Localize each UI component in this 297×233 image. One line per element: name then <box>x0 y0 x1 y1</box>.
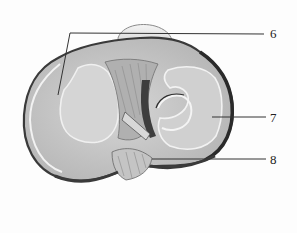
tibial-plateau-illustration <box>0 0 297 233</box>
posterior-ligament <box>112 149 152 180</box>
label-8: 8 <box>270 153 277 166</box>
label-6: 6 <box>270 27 277 40</box>
label-7: 7 <box>270 111 277 124</box>
anatomy-figure: 6 7 8 <box>0 0 297 233</box>
